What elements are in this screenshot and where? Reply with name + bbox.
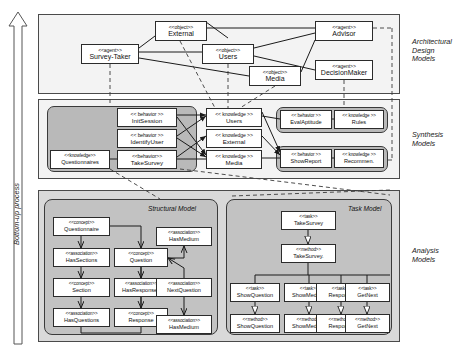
node-initsession[interactable]: << behavior >>InitSession — [117, 108, 177, 127]
node-hasquestions[interactable]: <<association>>HasQuestions — [53, 308, 110, 327]
bottom-up-arrow — [0, 0, 40, 353]
node-rules[interactable]: << knowledge >>Rules — [334, 110, 384, 129]
node-response-s-label: Response — [128, 316, 153, 324]
node-takesurvey-b-label: TakeSurvey — [131, 159, 163, 167]
node-method-takesurvey[interactable]: <<method>>TakeSurvey. — [281, 244, 336, 263]
node-k-users-label: Users — [226, 117, 242, 125]
node-initsession-label: InitSession — [132, 117, 162, 125]
node-task-getnext-label: GetNext — [357, 291, 378, 299]
node-decisionmaker[interactable]: <<agent>>DecisionMaker — [315, 60, 373, 80]
node-hassections[interactable]: <<association>>HasSections — [53, 248, 110, 267]
node-identifyuser-label: IdentifyUser — [130, 138, 163, 146]
node-k-media[interactable]: << knowledge >>Media — [206, 150, 262, 169]
node-hassections-label: HasSections — [66, 256, 97, 264]
node-external[interactable]: <<object>>External — [155, 21, 207, 41]
side-caption-1: Synthesis Models — [412, 131, 443, 148]
node-survey-taker[interactable]: <<agent>>Survey-Taker — [81, 44, 139, 64]
node-k-media-label: Media — [226, 159, 243, 167]
node-advisor-label: Advisor — [332, 30, 355, 38]
task-model-title: Task Model — [348, 205, 381, 212]
node-showreport-label: ShowReport — [291, 157, 322, 165]
node-recommen[interactable]: << knowledge >>Recommen. — [334, 149, 384, 168]
node-task-getnext[interactable]: <<task>>GetNext — [345, 283, 390, 302]
node-hasmedium-top[interactable]: <<association>>HasMedium — [156, 227, 212, 246]
node-users-label: Users — [219, 53, 237, 61]
node-questionnaire[interactable]: <<concept>>Questionnaire — [53, 217, 110, 236]
node-rules-label: Rules — [352, 118, 366, 126]
node-survey-taker-label: Survey-Taker — [89, 53, 130, 61]
node-method-showquestion-label: ShowQuestion — [237, 322, 273, 330]
node-hasresponses-label: HasResponses — [122, 286, 160, 294]
node-external-label: External — [168, 30, 194, 38]
node-users[interactable]: <<object>>Users — [202, 44, 254, 64]
node-showreport[interactable]: << behavior >>ShowReport — [280, 149, 332, 168]
node-media-label: Media — [265, 75, 284, 83]
node-method-takesurvey-label: TakeSurvey. — [293, 252, 323, 260]
node-recommen-label: Recommen. — [344, 157, 374, 165]
node-question[interactable]: <<concept>>Question — [114, 248, 168, 267]
node-hasmedium-bot[interactable]: <<association>>HasMedium — [156, 315, 212, 334]
node-hasmedium-top-label: HasMedium — [169, 235, 199, 243]
node-k-users[interactable]: << knowledge >>Users — [206, 108, 262, 127]
node-questionnaires[interactable]: <<knowledge>>Questionnaires — [50, 150, 110, 169]
node-method-getnext-label: GetNext — [357, 322, 378, 330]
node-questionnaire-label: Questionnaire — [64, 225, 99, 233]
node-task-takesurvey-label: TakeSurvey — [294, 219, 323, 227]
side-caption-0: Architectural Design Models — [412, 38, 452, 64]
node-decisionmaker-label: DecisionMaker — [321, 69, 367, 77]
node-section-label: Section — [72, 286, 91, 294]
node-nextquestion-label: NextQuestion — [167, 286, 201, 294]
node-task-showquestion-label: ShowQuestion — [237, 291, 273, 299]
side-caption-2: Analysis Models — [412, 247, 439, 264]
node-task-showquestion[interactable]: <<task>>ShowQuestion — [230, 283, 280, 302]
node-method-getnext[interactable]: <<method>>GetNext — [345, 314, 390, 333]
node-k-external[interactable]: << knowledge >>External — [206, 129, 262, 148]
structural-model-title: Structural Model — [148, 205, 196, 212]
diagram-canvas: Bottom-up process Structural ModelTask M… — [0, 0, 469, 353]
node-hasquestions-label: HasQuestions — [64, 316, 99, 324]
node-section[interactable]: <<concept>>Section — [53, 278, 110, 297]
node-identifyuser[interactable]: << behavior >>IdentifyUser — [117, 129, 177, 148]
bottom-up-process-label: Bottom-up process — [12, 183, 21, 245]
node-nextquestion[interactable]: <<association>>NextQuestion — [156, 278, 212, 297]
node-evalaptitude[interactable]: << behavior >>EvalAptitude — [280, 110, 332, 129]
node-task-takesurvey[interactable]: <<task>>TakeSurvey — [281, 211, 336, 230]
node-questionnaires-label: Questionnaires — [61, 158, 99, 166]
node-method-showquestion[interactable]: <<method>>ShowQuestion — [230, 314, 280, 333]
node-k-external-label: External — [223, 138, 246, 146]
node-evalaptitude-label: EvalAptitude — [290, 118, 321, 126]
node-advisor[interactable]: <<agent>>Advisor — [315, 21, 373, 41]
node-hasmedium-bot-label: HasMedium — [169, 323, 199, 331]
node-question-label: Question — [130, 256, 152, 264]
node-media[interactable]: <<object>>Media — [249, 66, 301, 86]
node-takesurvey-b[interactable]: <<behavior>>TakeSurvey — [117, 150, 177, 169]
